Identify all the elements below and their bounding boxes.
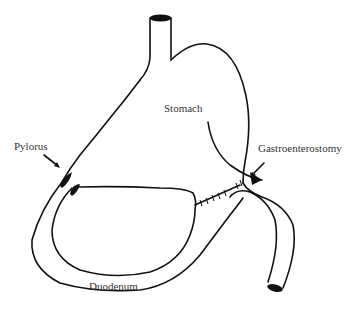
duodenum-label: Duodenum (89, 281, 138, 292)
esophagus-left-wall (140, 18, 150, 80)
stomach-label: Stomach (164, 103, 203, 114)
pylorus-label: Pylorus (14, 141, 48, 152)
suture-line (195, 185, 240, 205)
pylorus-sphincter-inner (70, 184, 80, 196)
jejunum-outer-wall (243, 183, 294, 288)
jejunum-opening (266, 283, 283, 294)
esophagus-opening (150, 15, 172, 22)
duodenum-inner-wall (52, 187, 196, 276)
diagram-canvas: Stomach Pylorus Gastroenterostomy Duoden… (0, 0, 346, 309)
anatomy-drawing (0, 0, 346, 309)
anastomosis-curve (208, 122, 262, 180)
jejunum-inner-wall (230, 191, 276, 282)
gastroenterostomy-pointer (252, 163, 264, 175)
stomach-lesser-curvature (62, 80, 140, 182)
gastroenterostomy-label: Gastroenterostomy (258, 143, 342, 154)
